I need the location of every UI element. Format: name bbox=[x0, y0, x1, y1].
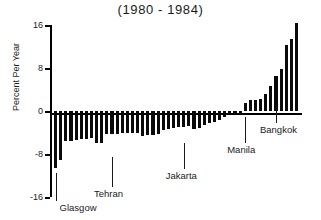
bar bbox=[64, 111, 67, 141]
bar bbox=[69, 111, 72, 141]
bar bbox=[182, 111, 185, 127]
annotation-label-tehran: Tehran bbox=[94, 189, 123, 199]
bar bbox=[187, 111, 190, 126]
y-tick-label: 0 bbox=[38, 107, 43, 116]
bar bbox=[259, 99, 262, 111]
plot-area: 1680-8-16 GlasgowTehranJakartaManilaBang… bbox=[50, 25, 302, 197]
bar bbox=[116, 111, 119, 134]
bar bbox=[228, 111, 231, 114]
bar bbox=[208, 111, 211, 123]
bar bbox=[54, 111, 57, 168]
bar bbox=[126, 111, 129, 133]
bar bbox=[192, 111, 195, 129]
y-tick-label: -8 bbox=[35, 150, 43, 159]
bar bbox=[203, 111, 206, 125]
annotation-label-jakarta: Jakarta bbox=[166, 171, 197, 181]
y-tick-label: 8 bbox=[38, 64, 43, 73]
leader-line-bangkok bbox=[276, 105, 277, 123]
bar bbox=[105, 111, 108, 134]
bar bbox=[75, 111, 78, 140]
bar bbox=[136, 111, 139, 133]
bar bbox=[254, 100, 257, 111]
bar bbox=[162, 111, 165, 130]
y-tick-label: -16 bbox=[30, 193, 43, 202]
bar bbox=[244, 103, 247, 111]
bar bbox=[177, 111, 180, 127]
bar bbox=[285, 45, 288, 111]
leader-line-jakarta bbox=[184, 143, 185, 169]
bar bbox=[100, 111, 103, 143]
bar bbox=[141, 111, 144, 136]
bar bbox=[223, 111, 226, 117]
bar bbox=[110, 111, 113, 134]
bar bbox=[213, 111, 216, 122]
bar bbox=[131, 111, 134, 133]
bar bbox=[295, 23, 298, 111]
bar bbox=[280, 69, 283, 111]
bar bbox=[90, 111, 93, 138]
y-tick-label: 16 bbox=[33, 21, 43, 30]
chart-title: (1980 - 1984) bbox=[0, 2, 321, 17]
leader-line-glasgow bbox=[56, 173, 57, 201]
y-axis-label: Percent Per Year bbox=[11, 17, 21, 137]
annotation-label-glasgow: Glasgow bbox=[60, 203, 97, 213]
bar bbox=[239, 111, 242, 115]
bar bbox=[167, 111, 170, 129]
bar bbox=[95, 111, 98, 143]
annotation-label-manila: Manila bbox=[227, 145, 255, 155]
bar bbox=[264, 94, 267, 111]
bar bbox=[59, 111, 62, 160]
annotation-label-bangkok: Bangkok bbox=[260, 125, 297, 135]
bar bbox=[80, 111, 83, 139]
bar bbox=[233, 111, 236, 114]
bar bbox=[218, 111, 221, 120]
bar bbox=[157, 111, 160, 134]
bar bbox=[172, 111, 175, 128]
bar bbox=[85, 111, 88, 139]
leader-line-tehran bbox=[112, 157, 113, 187]
bar bbox=[121, 111, 124, 133]
bar bbox=[290, 39, 293, 111]
bar bbox=[151, 111, 154, 135]
bar bbox=[249, 100, 252, 111]
leader-line-manila bbox=[245, 117, 246, 143]
chart-container: (1980 - 1984) Percent Per Year 1680-8-16… bbox=[0, 0, 321, 220]
bar bbox=[269, 86, 272, 111]
bar bbox=[146, 111, 149, 135]
y-tick-mark bbox=[45, 197, 50, 199]
bar bbox=[198, 111, 201, 128]
